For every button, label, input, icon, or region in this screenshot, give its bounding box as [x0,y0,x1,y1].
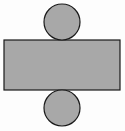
lateral-surface-rectangle [4,40,120,90]
top-base-circle [44,4,80,40]
cylinder-net-diagram [0,0,125,131]
bottom-base-circle [44,90,80,126]
cylinder-net-svg [0,0,125,131]
